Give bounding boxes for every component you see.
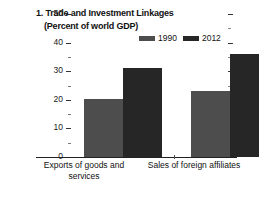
x-axis-label-0: Exports of goods and services <box>30 160 138 182</box>
y-tick-mark <box>66 71 71 72</box>
plot-area: 50403020100 <box>36 14 236 157</box>
y-tick-mark <box>66 100 71 101</box>
bar-0-1990 <box>84 99 123 157</box>
chart-figure: 1. Trade and Investment Linkages (Percen… <box>0 0 259 197</box>
y-tick-label: 20 <box>54 94 63 104</box>
y-tick-mark <box>68 114 71 115</box>
y-tick-label: 10 <box>54 122 63 132</box>
y-tick-label: 40 <box>54 37 63 47</box>
x-axis-label-1: Sales of foreign affiliates <box>140 160 248 171</box>
y-tick-mark <box>68 28 71 29</box>
y-tick-label: 50 <box>54 8 63 18</box>
bar-1-1990 <box>191 91 230 157</box>
x-axis-separator-tick <box>174 155 175 159</box>
y-tick-mark <box>68 86 71 87</box>
bar-1-2012 <box>230 54 259 157</box>
y-tick-mark <box>228 43 233 44</box>
y-tick-mark <box>228 14 233 15</box>
y-tick-mark <box>228 28 231 29</box>
y-tick-mark <box>66 14 71 15</box>
y-tick-mark <box>68 143 71 144</box>
y-tick-label: 30 <box>54 65 63 75</box>
y-tick-mark <box>66 128 71 129</box>
y-tick-mark <box>68 57 71 58</box>
y-tick-mark <box>66 43 71 44</box>
x-axis-line <box>36 157 237 158</box>
bar-0-2012 <box>123 68 162 157</box>
